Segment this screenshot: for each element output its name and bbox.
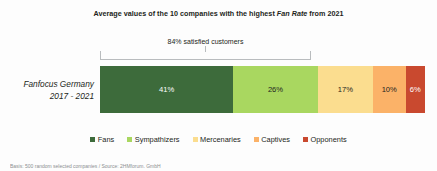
legend-swatch-sympathizers bbox=[127, 137, 132, 142]
chart-figure: Average values of the 10 companies with … bbox=[0, 0, 437, 171]
bar-segment-value-fans: 41% bbox=[159, 85, 174, 94]
legend-item-sympathizers[interactable]: Sympathizers bbox=[127, 135, 179, 144]
legend-swatch-mercenaries bbox=[193, 137, 198, 142]
bar-segment-value-sympathizers: 26% bbox=[268, 85, 283, 94]
legend-label-fans: Fans bbox=[98, 135, 114, 144]
bar-segment-value-opponents: 6% bbox=[410, 85, 421, 94]
bar-segment-value-captives: 10% bbox=[382, 85, 397, 94]
bar-segment-captives[interactable]: 10% bbox=[373, 66, 406, 113]
legend-swatch-fans bbox=[90, 137, 95, 142]
stacked-bar: 41% 26% 17% 10% 6% bbox=[100, 66, 425, 113]
legend-label-mercenaries: Mercenaries bbox=[200, 135, 241, 144]
chart-footnote: Basis: 500 random selected companies / S… bbox=[10, 163, 310, 170]
chart-title: Average values of the 10 companies with … bbox=[0, 9, 437, 18]
bar-segment-sympathizers[interactable]: 26% bbox=[233, 66, 318, 113]
chart-title-prefix: Average values of the 10 companies with … bbox=[94, 9, 277, 18]
legend-item-fans[interactable]: Fans bbox=[90, 135, 114, 144]
bar-segment-opponents[interactable]: 6% bbox=[406, 66, 426, 113]
chart-title-suffix: from 2021 bbox=[307, 9, 343, 18]
legend-label-sympathizers: Sympathizers bbox=[135, 135, 180, 144]
category-axis-label-line1: Fanfocus Germany bbox=[8, 79, 94, 91]
bar-segment-mercenaries[interactable]: 17% bbox=[318, 66, 373, 113]
legend-label-captives: Captives bbox=[261, 135, 290, 144]
legend-item-mercenaries[interactable]: Mercenaries bbox=[193, 135, 241, 144]
bar-segment-fans[interactable]: 41% bbox=[100, 66, 233, 113]
bar-segment-value-mercenaries: 17% bbox=[338, 85, 353, 94]
annotation-label: 84% satisfied customers bbox=[100, 38, 311, 45]
legend-item-captives[interactable]: Captives bbox=[254, 135, 290, 144]
category-axis-label-line2: 2017 - 2021 bbox=[8, 91, 94, 103]
annotation-bracket bbox=[100, 51, 311, 60]
legend-swatch-opponents bbox=[303, 137, 308, 142]
legend-item-opponents[interactable]: Opponents bbox=[303, 135, 347, 144]
category-axis-label: Fanfocus Germany 2017 - 2021 bbox=[8, 79, 94, 102]
chart-title-emphasis: Fan Rate bbox=[277, 9, 308, 18]
legend-label-opponents: Opponents bbox=[310, 135, 346, 144]
chart-legend: Fans Sympathizers Mercenaries Captives O… bbox=[0, 135, 437, 144]
legend-swatch-captives bbox=[254, 137, 259, 142]
